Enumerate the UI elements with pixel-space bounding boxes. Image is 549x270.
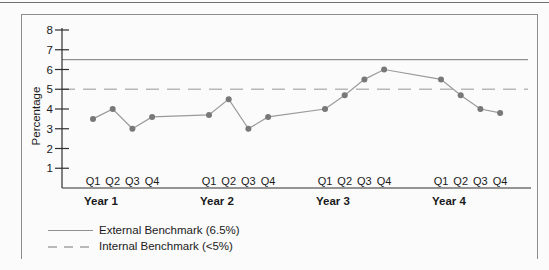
x-tick-label-quarter: Q2 — [105, 175, 120, 187]
legend-swatch-external-benchmark — [48, 230, 93, 231]
x-tick-label-quarter: Q3 — [125, 175, 140, 187]
x-tick-label-quarter: Q1 — [86, 175, 101, 187]
x-tick-label-quarter: Q1 — [202, 175, 217, 187]
data-point — [342, 92, 348, 98]
data-point — [381, 67, 387, 73]
x-tick-label-quarter: Q2 — [453, 175, 468, 187]
x-tick-label-quarter: Q4 — [377, 175, 392, 187]
data-point — [322, 106, 328, 112]
data-point — [245, 126, 251, 132]
y-tick-label: 8 — [47, 24, 53, 36]
x-tick-label-quarter: Q3 — [473, 175, 488, 187]
data-point — [361, 76, 367, 82]
data-point — [497, 110, 503, 116]
y-tick-label: 4 — [47, 103, 54, 115]
data-point — [149, 114, 155, 120]
x-tick-label-quarter: Q2 — [221, 175, 236, 187]
data-point — [110, 106, 116, 112]
data-point — [477, 106, 483, 112]
x-tick-label-quarter: Q3 — [357, 175, 372, 187]
y-tick-label: 5 — [47, 83, 53, 95]
y-tick-label: 6 — [47, 64, 53, 76]
x-group-label-year: Year 1 — [84, 195, 118, 207]
data-point — [206, 112, 212, 118]
x-tick-label-quarter: Q4 — [145, 175, 160, 187]
x-group-label-year: Year 4 — [432, 195, 466, 207]
y-tick-label: 2 — [47, 143, 53, 155]
data-point — [90, 116, 96, 122]
x-tick-label-quarter: Q4 — [493, 175, 508, 187]
x-tick-label-quarter: Q1 — [434, 175, 449, 187]
legend-label-external-benchmark: External Benchmark (6.5%) — [99, 223, 240, 237]
legend-swatch-internal-benchmark — [48, 246, 93, 248]
data-point — [458, 92, 464, 98]
y-tick-label: 3 — [47, 123, 53, 135]
x-tick-label-quarter: Q4 — [261, 175, 276, 187]
y-axis-title: Percentage — [30, 70, 46, 162]
x-tick-label-quarter: Q3 — [241, 175, 256, 187]
data-point — [438, 76, 444, 82]
x-group-label-year: Year 2 — [200, 195, 234, 207]
y-tick-label: 7 — [47, 44, 53, 56]
data-point — [265, 114, 271, 120]
x-group-label-year: Year 3 — [316, 195, 350, 207]
data-point — [226, 96, 232, 102]
data-point — [129, 126, 135, 132]
x-tick-label-quarter: Q2 — [337, 175, 352, 187]
x-tick-label-quarter: Q1 — [318, 175, 333, 187]
y-tick-label: 1 — [47, 162, 53, 174]
legend-label-internal-benchmark: Internal Benchmark (<5%) — [99, 239, 233, 253]
